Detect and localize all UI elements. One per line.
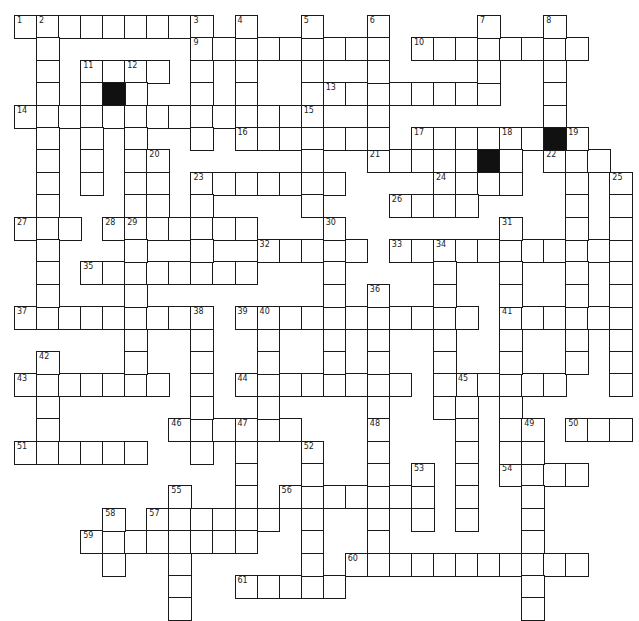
grid-cell[interactable]: 27 bbox=[14, 217, 38, 241]
grid-cell[interactable]: 39 bbox=[235, 306, 259, 330]
grid-cell[interactable] bbox=[587, 306, 611, 330]
grid-cell[interactable] bbox=[190, 82, 214, 106]
grid-cell[interactable] bbox=[455, 37, 479, 61]
grid-cell[interactable] bbox=[521, 485, 545, 509]
grid-cell[interactable] bbox=[36, 418, 60, 442]
grid-cell[interactable] bbox=[433, 329, 457, 353]
grid-cell[interactable] bbox=[323, 575, 347, 599]
grid-cell[interactable] bbox=[301, 373, 325, 397]
grid-cell[interactable]: 6 bbox=[367, 15, 391, 39]
grid-cell[interactable] bbox=[124, 239, 148, 263]
grid-cell[interactable] bbox=[323, 329, 347, 353]
grid-cell[interactable] bbox=[257, 127, 281, 151]
grid-cell[interactable]: 47 bbox=[235, 418, 259, 442]
grid-cell[interactable]: 35 bbox=[80, 261, 104, 285]
grid-cell[interactable] bbox=[212, 508, 236, 532]
grid-cell[interactable] bbox=[212, 530, 236, 554]
grid-cell[interactable] bbox=[279, 105, 303, 129]
grid-cell[interactable] bbox=[190, 239, 214, 263]
grid-cell[interactable] bbox=[565, 261, 589, 285]
grid-cell[interactable] bbox=[499, 441, 523, 465]
grid-cell[interactable] bbox=[36, 217, 60, 241]
grid-cell[interactable] bbox=[80, 105, 104, 129]
grid-cell[interactable] bbox=[389, 373, 413, 397]
grid-cell[interactable] bbox=[609, 373, 633, 397]
grid-cell[interactable] bbox=[212, 418, 236, 442]
grid-cell[interactable] bbox=[235, 217, 259, 241]
grid-cell[interactable] bbox=[565, 217, 589, 241]
grid-cell[interactable]: 14 bbox=[14, 105, 38, 129]
grid-cell[interactable] bbox=[411, 508, 435, 532]
grid-cell[interactable] bbox=[190, 194, 214, 218]
grid-cell[interactable] bbox=[36, 441, 60, 465]
grid-cell[interactable] bbox=[301, 37, 325, 61]
grid-cell[interactable] bbox=[301, 194, 325, 218]
grid-cell[interactable] bbox=[565, 194, 589, 218]
grid-cell[interactable] bbox=[565, 306, 589, 330]
grid-cell[interactable] bbox=[146, 194, 170, 218]
grid-cell[interactable] bbox=[168, 217, 192, 241]
grid-cell[interactable]: 4 bbox=[235, 15, 259, 39]
grid-cell[interactable] bbox=[499, 261, 523, 285]
grid-cell[interactable] bbox=[124, 172, 148, 196]
grid-cell[interactable] bbox=[124, 530, 148, 554]
grid-cell[interactable] bbox=[301, 485, 325, 509]
grid-cell[interactable] bbox=[257, 575, 281, 599]
grid-cell[interactable] bbox=[212, 261, 236, 285]
grid-cell[interactable] bbox=[367, 553, 391, 577]
grid-cell[interactable] bbox=[190, 351, 214, 375]
grid-cell[interactable]: 8 bbox=[543, 15, 567, 39]
grid-cell[interactable] bbox=[455, 485, 479, 509]
grid-cell[interactable] bbox=[521, 575, 545, 599]
grid-cell[interactable] bbox=[190, 60, 214, 84]
grid-cell[interactable]: 11 bbox=[80, 60, 104, 84]
grid-cell[interactable] bbox=[36, 149, 60, 173]
grid-cell[interactable] bbox=[609, 194, 633, 218]
grid-cell[interactable] bbox=[257, 172, 281, 196]
grid-cell[interactable] bbox=[367, 485, 391, 509]
grid-cell[interactable]: 36 bbox=[367, 284, 391, 308]
grid-cell[interactable] bbox=[367, 351, 391, 375]
grid-cell[interactable] bbox=[279, 373, 303, 397]
grid-cell[interactable] bbox=[168, 261, 192, 285]
grid-cell[interactable] bbox=[124, 15, 148, 39]
grid-cell[interactable] bbox=[279, 172, 303, 196]
grid-cell[interactable] bbox=[455, 82, 479, 106]
grid-cell[interactable]: 20 bbox=[146, 149, 170, 173]
grid-cell[interactable] bbox=[102, 306, 126, 330]
grid-cell[interactable]: 55 bbox=[168, 485, 192, 509]
grid-cell[interactable] bbox=[543, 553, 567, 577]
grid-cell[interactable] bbox=[345, 127, 369, 151]
grid-cell[interactable] bbox=[411, 239, 435, 263]
grid-cell[interactable]: 34 bbox=[433, 239, 457, 263]
grid-cell[interactable] bbox=[433, 261, 457, 285]
grid-cell[interactable]: 2 bbox=[36, 15, 60, 39]
grid-cell[interactable] bbox=[124, 441, 148, 465]
grid-cell[interactable]: 10 bbox=[411, 37, 435, 61]
grid-cell[interactable]: 25 bbox=[609, 172, 633, 196]
grid-cell[interactable] bbox=[190, 105, 214, 129]
grid-cell[interactable] bbox=[124, 284, 148, 308]
grid-cell[interactable]: 22 bbox=[543, 149, 567, 173]
grid-cell[interactable] bbox=[102, 530, 126, 554]
grid-cell[interactable] bbox=[190, 508, 214, 532]
grid-cell[interactable] bbox=[389, 149, 413, 173]
grid-cell[interactable] bbox=[235, 82, 259, 106]
grid-cell[interactable] bbox=[257, 351, 281, 375]
grid-cell[interactable] bbox=[411, 149, 435, 173]
grid-cell[interactable] bbox=[146, 373, 170, 397]
grid-cell[interactable] bbox=[190, 329, 214, 353]
grid-cell[interactable] bbox=[543, 37, 567, 61]
grid-cell[interactable] bbox=[367, 127, 391, 151]
grid-cell[interactable] bbox=[609, 261, 633, 285]
grid-cell[interactable]: 32 bbox=[257, 239, 281, 263]
grid-cell[interactable] bbox=[587, 149, 611, 173]
grid-cell[interactable] bbox=[124, 149, 148, 173]
grid-cell[interactable] bbox=[367, 37, 391, 61]
grid-cell[interactable]: 48 bbox=[367, 418, 391, 442]
grid-cell[interactable] bbox=[345, 82, 369, 106]
grid-cell[interactable] bbox=[477, 373, 501, 397]
grid-cell[interactable] bbox=[257, 37, 281, 61]
grid-cell[interactable] bbox=[521, 306, 545, 330]
grid-cell[interactable] bbox=[279, 418, 303, 442]
